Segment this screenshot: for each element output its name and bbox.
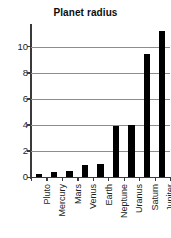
x-tick-label: Mars	[74, 184, 83, 204]
chart-figure: Planet radius 0246810 PlutoMercuryMarsVe…	[0, 0, 171, 238]
x-tick-label: Uranus	[135, 184, 144, 213]
x-tick-label: Neptune	[120, 184, 129, 218]
x-tick-label: Jupiter	[166, 184, 171, 211]
x-axis-labels: PlutoMercuryMarsVenusEarthNeptuneUranusS…	[0, 0, 171, 238]
x-tick-label: Earth	[105, 184, 114, 206]
x-tick-label: Mercury	[58, 184, 67, 217]
x-tick-label: Saturn	[151, 184, 160, 211]
x-tick-label: Venus	[89, 184, 98, 209]
x-tick-label: Pluto	[43, 184, 52, 205]
